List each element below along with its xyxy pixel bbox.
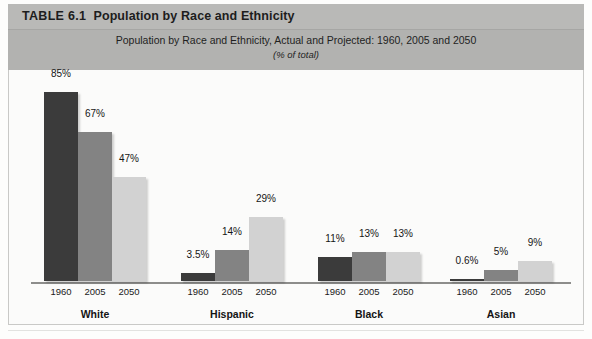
- bar-set-hispanic: 3.5% 14% 29%: [181, 81, 283, 281]
- x-tick-labels-white: 1960 2005 2050: [37, 286, 153, 297]
- bar-slot: 0.6%: [450, 81, 484, 281]
- bar-value-label: 47%: [119, 153, 139, 164]
- x-tick-label: 2050: [112, 286, 146, 297]
- bar-group-hispanic: 3.5% 14% 29% 1960 2005 2050 Hispanic: [164, 70, 300, 324]
- bar-slot: 47%: [112, 81, 146, 281]
- bar-group-white: 85% 67% 47% 1960 2005 2050 White: [27, 70, 163, 324]
- bar-hispanic-1960[interactable]: [181, 273, 215, 281]
- chart-plot-area: 85% 67% 47% 1960 2005 2050 White: [8, 70, 584, 325]
- bar-hispanic-2005[interactable]: [215, 250, 249, 281]
- x-tick-labels-black: 1960 2005 2050: [311, 286, 427, 297]
- bar-white-2050[interactable]: [112, 177, 146, 281]
- bar-slot: 67%: [78, 81, 112, 281]
- x-tick-labels-hispanic: 1960 2005 2050: [174, 286, 290, 297]
- bar-value-label: 67%: [85, 108, 105, 119]
- bar-value-label: 0.6%: [456, 255, 479, 266]
- bar-black-2050[interactable]: [386, 252, 420, 281]
- bar-black-1960[interactable]: [318, 257, 352, 281]
- x-tick-label: 2050: [249, 286, 283, 297]
- chart-units-note: (% of total): [8, 49, 584, 60]
- table-title-band: TABLE 6.1 Population by Race and Ethnici…: [8, 4, 584, 30]
- x-tick-label: 2005: [352, 286, 386, 297]
- bar-value-label: 13%: [359, 228, 379, 239]
- x-tick-label: 2005: [78, 286, 112, 297]
- chart-subtitle: Population by Race and Ethnicity, Actual…: [8, 34, 584, 46]
- x-tick-label: 1960: [181, 286, 215, 297]
- bar-group-black: 11% 13% 13% 1960 2005 2050 Black: [301, 70, 437, 324]
- page-title: TABLE 6.1 Population by Race and Ethnici…: [22, 9, 295, 23]
- table-header: TABLE 6.1 Population by Race and Ethnici…: [8, 4, 584, 70]
- bar-value-label: 11%: [325, 233, 344, 244]
- bar-set-asian: 0.6% 5% 9%: [450, 81, 552, 281]
- table-figure: TABLE 6.1 Population by Race and Ethnici…: [0, 0, 592, 339]
- group-label-white: White: [27, 308, 163, 320]
- bar-set-black: 11% 13% 13%: [318, 81, 420, 281]
- table-subtitle-band: Population by Race and Ethnicity, Actual…: [8, 30, 584, 70]
- x-tick-labels-asian: 1960 2005 2050: [443, 286, 559, 297]
- x-tick-label: 1960: [450, 286, 484, 297]
- group-label-asian: Asian: [433, 308, 569, 320]
- bar-white-1960[interactable]: [44, 92, 78, 281]
- bar-group-asian: 0.6% 5% 9% 1960 2005 2050 Asian: [433, 70, 569, 324]
- bar-value-label: 3.5%: [187, 249, 210, 260]
- bottom-divider: [8, 330, 584, 331]
- table-title: Population by Race and Ethnicity: [93, 9, 294, 23]
- x-tick-label: 1960: [318, 286, 352, 297]
- bar-value-label: 29%: [256, 193, 276, 204]
- x-tick-label: 2005: [215, 286, 249, 297]
- x-tick-label: 2005: [484, 286, 518, 297]
- group-label-hispanic: Hispanic: [164, 308, 300, 320]
- bar-hispanic-2050[interactable]: [249, 217, 283, 281]
- bar-slot: 85%: [44, 81, 78, 281]
- bar-slot: 29%: [249, 81, 283, 281]
- bar-slot: 5%: [484, 81, 518, 281]
- bar-asian-1960[interactable]: [450, 279, 484, 281]
- bar-asian-2005[interactable]: [484, 270, 518, 281]
- bar-slot: 11%: [318, 81, 352, 281]
- bar-asian-2050[interactable]: [518, 261, 552, 281]
- bar-black-2005[interactable]: [352, 252, 386, 281]
- bar-slot: 13%: [386, 81, 420, 281]
- bar-slot: 9%: [518, 81, 552, 281]
- x-tick-label: 2050: [518, 286, 552, 297]
- bar-slot: 13%: [352, 81, 386, 281]
- bar-value-label: 13%: [393, 228, 413, 239]
- bar-slot: 3.5%: [181, 81, 215, 281]
- bar-value-label: 5%: [494, 246, 508, 257]
- x-tick-label: 2050: [386, 286, 420, 297]
- table-number: TABLE 6.1: [22, 9, 86, 23]
- group-label-black: Black: [301, 308, 437, 320]
- bar-white-2005[interactable]: [78, 132, 112, 281]
- bar-value-label: 14%: [222, 226, 242, 237]
- x-tick-label: 1960: [44, 286, 78, 297]
- bar-value-label: 9%: [528, 237, 542, 248]
- bar-set-white: 85% 67% 47%: [44, 81, 146, 281]
- bar-slot: 14%: [215, 81, 249, 281]
- bar-value-label: 85%: [51, 68, 71, 79]
